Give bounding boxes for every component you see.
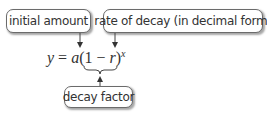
decay-factor-label: decay factor [64, 86, 133, 108]
arrow-initial-amount-icon [77, 33, 83, 48]
brace-icon [84, 66, 117, 74]
arrow-decay-factor-icon [97, 76, 103, 86]
arrow-rate-of-decay-icon [112, 33, 118, 48]
decay-factor-text: decay factor [63, 90, 134, 104]
